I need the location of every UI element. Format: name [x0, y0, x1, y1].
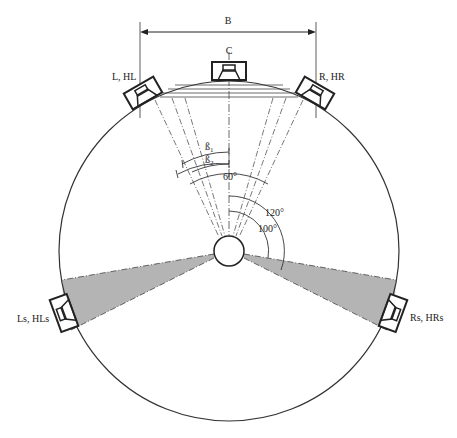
front-angle-label: 60°	[223, 171, 237, 182]
dimension-b-label: B	[225, 15, 232, 26]
surround-inner-label: 100°	[258, 223, 277, 234]
speaker-right-label: R, HR	[319, 71, 345, 82]
left-rays	[155, 98, 225, 237]
speaker-center	[212, 62, 246, 80]
surround-outer-label: 120°	[265, 207, 284, 218]
right-surround-sector	[244, 254, 396, 330]
speaker-center-label: C	[226, 45, 233, 56]
speaker-left-surround-label: Ls, HLs	[17, 313, 49, 324]
speaker-right-surround-label: Rs, HRs	[410, 312, 443, 323]
speaker-left-label: L, HL	[112, 71, 136, 82]
beta1-label: ß1	[205, 141, 214, 154]
speaker-layout-diagram: B ß1 ß2 60° 120° 100° C L, HL R, HR Ls, …	[0, 0, 457, 438]
left-surround-sector	[62, 254, 214, 330]
listener-position	[214, 236, 244, 266]
beta2-label: ß2	[205, 154, 214, 167]
